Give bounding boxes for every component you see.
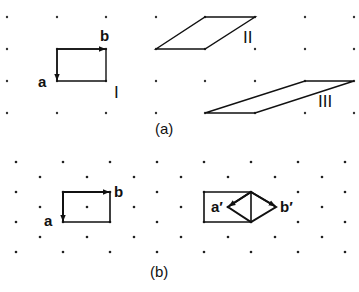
lattice-point (353, 48, 355, 50)
lattice-point (353, 112, 355, 114)
lattice-point (6, 48, 8, 50)
lattice-point (105, 16, 107, 18)
lattice-point (15, 251, 18, 254)
lattice-point (250, 251, 253, 254)
vector-b-label: b (100, 27, 109, 44)
lattice-point (227, 236, 230, 239)
vector-b-prime-label: b′ (280, 198, 293, 215)
lattice-point (297, 161, 300, 164)
panel-b-caption: (b) (150, 263, 168, 280)
lattice-point (133, 236, 136, 239)
lattice-point (86, 206, 89, 209)
lattice-point (6, 80, 8, 82)
lattice-point (274, 176, 277, 179)
lattice-point (86, 176, 89, 179)
lattice-point (344, 161, 347, 164)
lattice-point (180, 206, 183, 209)
lattice-point (15, 161, 18, 164)
lattice-point (62, 161, 65, 164)
lattice-point (133, 176, 136, 179)
lattice-diagram: IIIIII ab (a) aba′b′ (b) (0, 0, 359, 292)
lattice-point (109, 161, 112, 164)
lattice-point (56, 16, 58, 18)
vector-b-prime-arrow (251, 192, 275, 206)
lattice-point (155, 112, 157, 114)
lattice-point (254, 80, 256, 82)
lattice-point (203, 161, 206, 164)
lattice-point (6, 112, 8, 114)
cell-label-i: I (114, 83, 119, 102)
lattice-point (304, 16, 306, 18)
lattice-point (15, 221, 18, 224)
lattice-point (86, 236, 89, 239)
lattice-point (204, 80, 206, 82)
lattice-point (297, 221, 300, 224)
lattice-point (250, 161, 253, 164)
lattice-point (254, 48, 256, 50)
unit-cell-i (57, 49, 106, 81)
lattice-point (39, 206, 42, 209)
lattice-point (344, 221, 347, 224)
lattice-point (62, 251, 65, 254)
cell-label-ii: II (243, 28, 252, 47)
lattice-point (155, 16, 157, 18)
lattice-point (321, 176, 324, 179)
lattice-point (297, 191, 300, 194)
hexagonal-lattice-points (15, 161, 347, 254)
lattice-point (321, 236, 324, 239)
lattice-point (297, 251, 300, 254)
lattice-point (274, 236, 277, 239)
lattice-point (180, 236, 183, 239)
lattice-point (344, 191, 347, 194)
lattice-point (105, 112, 107, 114)
square-lattice-points (6, 16, 355, 114)
panel-a-caption: (a) (155, 120, 173, 137)
lattice-point (321, 206, 324, 209)
lattice-point (156, 251, 159, 254)
lattice-point (156, 191, 159, 194)
lattice-point (39, 176, 42, 179)
lattice-point (353, 16, 355, 18)
vector-a-prime-arrow (229, 192, 251, 206)
lattice-point (155, 80, 157, 82)
lattice-point (109, 251, 112, 254)
lattice-point (156, 161, 159, 164)
lattice-point (6, 16, 8, 18)
primitive-rhombus-cell (228, 192, 276, 222)
lattice-point (344, 251, 347, 254)
lattice-point (227, 176, 230, 179)
cell-label-iii: III (318, 92, 332, 111)
lattice-point (39, 236, 42, 239)
lattice-point (203, 251, 206, 254)
panel-a-square-lattice: IIIIII ab (a) (6, 16, 355, 137)
vector-b-label: b (114, 183, 123, 200)
vector-a-label: a (38, 73, 47, 90)
vector-a-label: a (44, 212, 53, 229)
lattice-point (15, 191, 18, 194)
lattice-point (156, 221, 159, 224)
vector-a-prime-label: a′ (211, 198, 223, 215)
lattice-point (304, 48, 306, 50)
panel-b-hexagonal-lattice: aba′b′ (b) (15, 161, 347, 280)
lattice-point (133, 206, 136, 209)
lattice-point (304, 112, 306, 114)
unit-cell-ii (156, 17, 255, 49)
lattice-point (180, 176, 183, 179)
lattice-point (56, 112, 58, 114)
